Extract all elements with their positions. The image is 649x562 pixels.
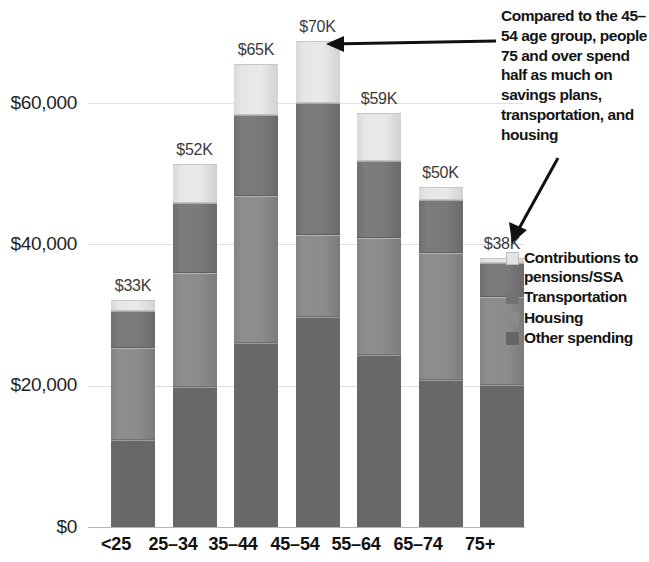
bar-group[interactable]: $70K bbox=[296, 0, 340, 527]
legend: Contributions to pensions/SSA Transporta… bbox=[506, 249, 649, 350]
bar-group[interactable]: $59K bbox=[357, 0, 401, 527]
bar-segment-other[interactable] bbox=[419, 380, 463, 527]
bar-segment-other[interactable] bbox=[111, 440, 155, 527]
bar-segment-housing[interactable] bbox=[419, 253, 463, 380]
bar-segment-transportation[interactable] bbox=[234, 115, 278, 196]
bar-total-label: $59K bbox=[334, 90, 424, 108]
legend-swatch-pension-icon bbox=[506, 252, 519, 265]
bar-segment-transportation[interactable] bbox=[111, 311, 155, 348]
bar-segment-pension[interactable] bbox=[173, 164, 217, 202]
bar-segment-pension[interactable] bbox=[111, 300, 155, 311]
plot-area: $33K$52K$65K$70K$59K$50K$38K bbox=[88, 0, 525, 527]
bar-stack bbox=[234, 64, 278, 527]
bar-total-label: $50K bbox=[396, 164, 486, 182]
bar-group[interactable]: $65K bbox=[234, 0, 278, 527]
bar-stack bbox=[357, 113, 401, 527]
bar-segment-other[interactable] bbox=[296, 317, 340, 527]
legend-label-transportation: Transportation bbox=[524, 288, 627, 307]
legend-swatch-other-icon bbox=[506, 332, 519, 345]
bar-total-label: $33K bbox=[88, 277, 178, 295]
legend-item-other[interactable]: Other spending bbox=[506, 329, 649, 348]
bar-segment-pension[interactable] bbox=[357, 113, 401, 161]
bar-segment-transportation[interactable] bbox=[357, 161, 401, 238]
bar-total-label: $52K bbox=[150, 141, 240, 159]
bar-stack bbox=[419, 187, 463, 527]
legend-label-pension: Contributions to pensions/SSA bbox=[524, 249, 649, 286]
y-axis-label-60000: $60,000 bbox=[0, 92, 77, 114]
bar-total-label: $70K bbox=[273, 18, 363, 36]
legend-swatch-transportation-icon bbox=[506, 291, 519, 304]
bar-stack bbox=[111, 300, 155, 527]
bar-segment-transportation[interactable] bbox=[296, 103, 340, 235]
bar-segment-other[interactable] bbox=[234, 343, 278, 527]
y-axis-label-40000: $40,000 bbox=[0, 233, 77, 255]
bar-segment-housing[interactable] bbox=[296, 235, 340, 317]
y-axis-label-0: $0 bbox=[0, 516, 77, 538]
legend-swatch-housing-icon bbox=[506, 312, 519, 325]
legend-item-housing[interactable]: Housing bbox=[506, 309, 649, 328]
bar-segment-transportation[interactable] bbox=[173, 203, 217, 274]
bar-segment-other[interactable] bbox=[173, 387, 217, 527]
axis-baseline bbox=[88, 527, 525, 528]
legend-item-pension[interactable]: Contributions to pensions/SSA bbox=[506, 249, 649, 286]
bar-segment-pension[interactable] bbox=[419, 187, 463, 200]
bar-group[interactable]: $50K bbox=[419, 0, 463, 527]
bar-segment-housing[interactable] bbox=[234, 196, 278, 343]
x-axis-label-75plus: 75+ bbox=[435, 534, 525, 555]
bar-segment-transportation[interactable] bbox=[419, 200, 463, 253]
bar-segment-pension[interactable] bbox=[234, 64, 278, 115]
legend-label-other: Other spending bbox=[524, 329, 633, 348]
bar-segment-housing[interactable] bbox=[111, 348, 155, 440]
bar-stack bbox=[173, 164, 217, 527]
bar-total-label: $65K bbox=[211, 41, 301, 59]
y-axis-label-20000: $20,000 bbox=[0, 374, 77, 396]
bar-segment-housing[interactable] bbox=[173, 273, 217, 387]
bar-group[interactable]: $52K bbox=[173, 0, 217, 527]
bar-segment-pension[interactable] bbox=[296, 41, 340, 103]
bar-segment-other[interactable] bbox=[480, 385, 524, 527]
bar-stack bbox=[296, 41, 340, 527]
annotation-callout: Compared to the 45–54 age group, people … bbox=[501, 6, 649, 145]
stacked-bar-chart: $60,000 $40,000 $20,000 $0 $33K$52K$65K$… bbox=[0, 0, 649, 562]
bar-segment-housing[interactable] bbox=[357, 238, 401, 355]
bar-group[interactable]: $33K bbox=[111, 0, 155, 527]
bar-segment-other[interactable] bbox=[357, 355, 401, 527]
legend-item-transportation[interactable]: Transportation bbox=[506, 288, 649, 307]
legend-label-housing: Housing bbox=[524, 309, 583, 328]
